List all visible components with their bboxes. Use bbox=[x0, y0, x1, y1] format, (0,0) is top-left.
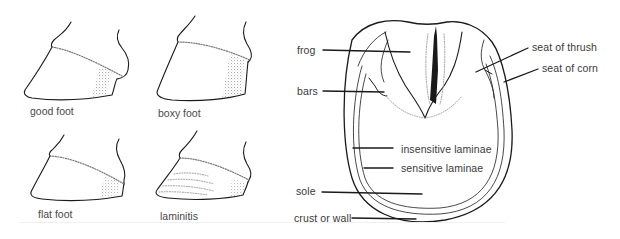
label-sensitive-laminae: sensitive laminae bbox=[401, 163, 483, 174]
good-foot-drawing bbox=[24, 22, 128, 100]
flat-foot-drawing bbox=[31, 135, 125, 200]
bottom-divider bbox=[20, 222, 505, 223]
caption-laminitis: laminitis bbox=[160, 211, 198, 222]
diagram-artwork bbox=[0, 0, 620, 239]
label-seat-of-thrush: seat of thrush bbox=[532, 42, 597, 53]
caption-good-foot: good foot bbox=[30, 106, 74, 117]
seat-of-corn-leader bbox=[504, 69, 538, 82]
label-frog: frog bbox=[297, 45, 316, 56]
label-bars: bars bbox=[297, 86, 318, 97]
sole-leader bbox=[322, 192, 422, 194]
caption-boxy-foot: boxy foot bbox=[158, 108, 201, 119]
seat-of-thrush-leader bbox=[476, 48, 528, 72]
label-sole: sole bbox=[296, 186, 316, 197]
label-insensitive-laminae: insensitive laminae bbox=[401, 144, 492, 155]
hoof-diagram: good foot boxy foot flat foot laminitis … bbox=[0, 0, 620, 239]
bars-leader bbox=[323, 91, 384, 92]
crust-or-wall-leader bbox=[352, 218, 416, 219]
label-seat-of-corn: seat of corn bbox=[542, 63, 598, 74]
laminitis-drawing bbox=[156, 131, 251, 199]
boxy-foot-drawing bbox=[157, 16, 251, 101]
caption-flat-foot: flat foot bbox=[38, 209, 72, 220]
frog-leader bbox=[323, 50, 410, 52]
sole-view-drawing bbox=[322, 21, 538, 222]
